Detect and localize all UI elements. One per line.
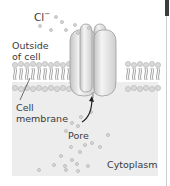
pore-label: Pore (68, 130, 89, 141)
outside-label-line2: of cell (12, 51, 49, 62)
ion-symbol: Cl (34, 11, 44, 23)
membrane-label-line2: membrane (16, 113, 68, 124)
ion-label: Cl− (34, 9, 50, 23)
outside-label: Outside of cell (12, 40, 49, 62)
cytoplasm-label: Cytoplasm (107, 159, 158, 170)
channel-protein (70, 24, 116, 98)
ion-charge: − (44, 10, 50, 18)
membrane-label: Cell membrane (16, 102, 68, 124)
membrane-label-line1: Cell (16, 102, 68, 113)
outside-label-line1: Outside (12, 40, 49, 51)
